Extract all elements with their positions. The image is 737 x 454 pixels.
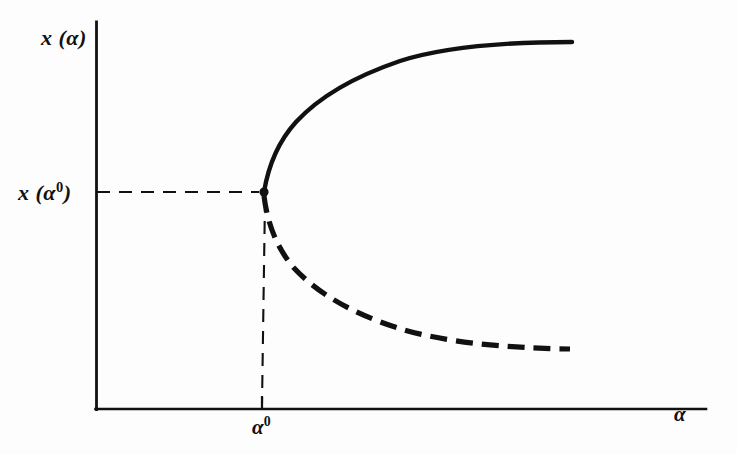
x-critical-value-label: α0	[252, 415, 271, 438]
y-critical-label-superscript: 0	[56, 179, 64, 195]
y-critical-value-label: x (α0)	[18, 180, 72, 204]
lower-unstable-branch-curve	[264, 196, 570, 349]
y-axis-label-text: x (α)	[41, 25, 87, 50]
bifurcation-point-marker	[259, 187, 268, 196]
y-axis-label: x (α)	[41, 27, 87, 49]
x-axis-label: α	[674, 404, 686, 425]
upper-stable-branch-curve	[264, 42, 572, 192]
x-axis-label-text: α	[674, 402, 686, 426]
vertical-guide-dashed-line	[262, 199, 265, 404]
x-critical-label-superscript: 0	[264, 414, 271, 429]
x-critical-label-base: α	[252, 415, 264, 439]
y-critical-label-tail: )	[64, 180, 72, 205]
plot-canvas	[0, 0, 737, 454]
bifurcation-diagram-figure: x (α) x (α0) α0 α	[0, 0, 737, 454]
y-critical-label-base: x (α	[18, 180, 56, 205]
